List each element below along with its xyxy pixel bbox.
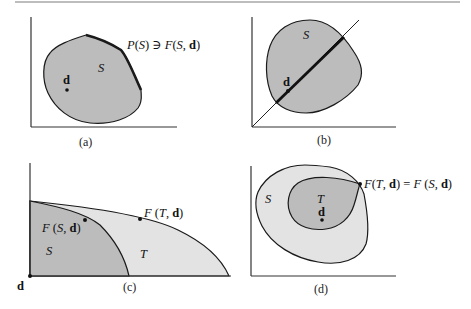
- panel-c-outer-set-label: T: [140, 247, 148, 261]
- panel-a: d S P(S) ∋ F(S, d) (a): [31, 17, 200, 149]
- panel-a-point-d: [65, 88, 69, 92]
- panel-d-point-f: [358, 182, 362, 186]
- panel-d-point-label: d: [318, 205, 325, 219]
- panel-b-caption: (b): [317, 133, 331, 147]
- panel-a-set-label: S: [98, 61, 105, 75]
- panel-d-caption: (d): [314, 282, 328, 296]
- panel-b-point-d: [286, 89, 290, 93]
- panel-d-annotation: F(T, d) = F (S, d): [363, 177, 452, 191]
- panel-c-ft-label: F (T, d): [143, 206, 183, 220]
- panel-c-inner-set-label: S: [46, 244, 53, 258]
- panel-c-caption: (c): [123, 280, 136, 294]
- nash-bargaining-figure: d S P(S) ∋ F(S, d) (a) d S (b) d S T F (…: [0, 0, 471, 309]
- panel-c-origin-d: [28, 274, 32, 278]
- panel-c: d S T F (S, d) F (T, d) (c): [17, 163, 231, 294]
- panel-a-annotation: P(S) ∋ F(S, d): [126, 38, 200, 52]
- panel-b: d S (b): [252, 17, 396, 147]
- panel-d-inner-set-label: T: [317, 192, 325, 206]
- panel-c-point-fs: [83, 218, 87, 222]
- panel-d: d S T F(T, d) = F (S, d) (d): [251, 165, 452, 296]
- panel-b-set-label: S: [303, 28, 310, 42]
- panel-a-caption: (a): [79, 135, 92, 149]
- panel-c-fs-label: F (S, d): [41, 221, 81, 235]
- panel-c-origin-label: d: [17, 279, 24, 293]
- panel-a-point-label: d: [63, 73, 70, 87]
- panel-c-point-ft: [138, 217, 142, 221]
- panel-b-point-label: d: [283, 75, 290, 89]
- panel-d-outer-set-label: S: [265, 192, 272, 206]
